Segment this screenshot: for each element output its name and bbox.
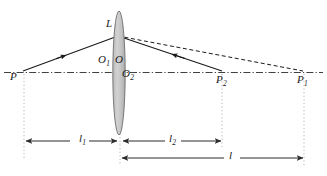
dimension-label-l2: l2 bbox=[169, 133, 176, 144]
diagram-canvas bbox=[0, 0, 327, 176]
point-label-O: O bbox=[115, 54, 123, 65]
point-label-P2: P2 bbox=[216, 74, 226, 85]
point-label-L: L bbox=[106, 18, 112, 29]
point-label-P: P bbox=[10, 71, 17, 82]
point-label-O2: O2 bbox=[122, 68, 134, 79]
optics-diagram-figure: P L O1 O O2 P2 P1 l1 l2 l bbox=[0, 0, 327, 176]
point-label-O1: O1 bbox=[98, 54, 110, 65]
dimension-label-l: l bbox=[229, 150, 232, 161]
dimension-label-l1: l1 bbox=[79, 133, 86, 144]
virtual-ray-L-to-P1 bbox=[118, 36, 303, 71]
guide-lines bbox=[24, 74, 304, 166]
point-label-P1: P1 bbox=[297, 74, 307, 85]
refracted-ray-L-to-P2 bbox=[118, 36, 222, 71]
